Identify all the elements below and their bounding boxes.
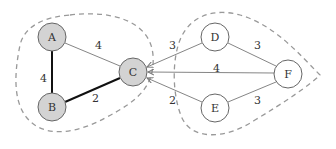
node-label-B: B (48, 101, 56, 114)
node-label-A: A (47, 31, 57, 44)
node-F: F (274, 60, 302, 88)
edge-label-B-C: 2 (92, 92, 99, 105)
node-B: B (38, 93, 66, 121)
node-D: D (201, 23, 229, 51)
edge-F-C (148, 72, 274, 73)
edge-label-D-F: 3 (254, 39, 261, 52)
edge-D-F (228, 43, 276, 66)
node-C: C (119, 58, 147, 86)
edge-A-C (65, 43, 120, 66)
edge-label-E-C: 2 (169, 94, 176, 107)
node-A: A (38, 23, 66, 51)
node-label-D: D (211, 31, 220, 44)
edge-label-A-B: 4 (40, 72, 47, 85)
graph-diagram: 4 2 4 3 4 2 3 3 A B C D E F (0, 0, 336, 149)
node-label-E: E (211, 102, 219, 115)
node-E: E (201, 94, 229, 122)
edge-E-F (228, 82, 276, 102)
node-label-C: C (129, 66, 137, 79)
edge-label-E-F: 3 (254, 94, 261, 107)
edge-label-A-C: 4 (95, 39, 102, 52)
edge-label-D-C: 3 (169, 39, 176, 52)
edge-label-F-C: 4 (213, 62, 220, 75)
node-label-F: F (284, 68, 292, 81)
